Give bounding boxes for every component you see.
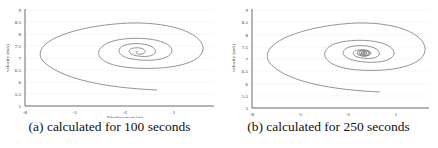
- svg-text:5.5: 5.5: [15, 92, 22, 97]
- svg-text:-8: -8: [250, 112, 255, 117]
- svg-text:-8: -8: [23, 110, 28, 115]
- svg-text:8.5: 8.5: [242, 20, 249, 25]
- x-ticks: -8-5 -21: [23, 110, 176, 115]
- y-ticks: 98.58 7.576.5 65.55: [15, 8, 22, 109]
- gridlines: [252, 10, 429, 96]
- phase-plot-b: 98.58 7.576.5 65.55 -8-5 -21 Displacemen…: [219, 0, 438, 118]
- svg-text:7: 7: [246, 57, 249, 62]
- spiral-line: [267, 23, 425, 92]
- x-axis-label: Displacement (m): [107, 115, 143, 118]
- svg-text:-5: -5: [73, 110, 78, 115]
- svg-text:1: 1: [395, 112, 398, 117]
- svg-text:8: 8: [246, 33, 249, 38]
- spiral-line: [40, 23, 203, 90]
- svg-text:5: 5: [19, 104, 22, 109]
- svg-text:6: 6: [246, 82, 249, 87]
- svg-text:8: 8: [19, 32, 22, 37]
- svg-text:9: 9: [246, 8, 249, 13]
- svg-text:8.5: 8.5: [15, 20, 22, 25]
- svg-text:5.5: 5.5: [242, 94, 249, 99]
- svg-text:6.5: 6.5: [242, 69, 249, 74]
- chart-panel-a: 98.58 7.576.5 65.55 -8-5 -21 Displacemen…: [0, 0, 219, 148]
- svg-text:7.5: 7.5: [15, 44, 22, 49]
- chart-panel-b: 98.58 7.576.5 65.55 -8-5 -21 Displacemen…: [219, 0, 438, 148]
- svg-text:7: 7: [19, 56, 22, 61]
- y-axis-label: velocity (m/s): [5, 44, 10, 72]
- y-ticks: 98.58 7.576.5 65.55: [242, 8, 249, 111]
- caption-b: (b) calculated for 250 seconds: [219, 119, 438, 135]
- svg-text:1: 1: [173, 110, 176, 115]
- svg-text:6.5: 6.5: [15, 68, 22, 73]
- x-ticks: -8-5 -21: [250, 112, 398, 117]
- spiral-core: [357, 50, 371, 56]
- svg-text:7.5: 7.5: [242, 45, 249, 50]
- x-axis-label: Displacement (m): [326, 117, 362, 118]
- svg-text:9: 9: [19, 8, 22, 13]
- phase-plot-a: 98.58 7.576.5 65.55 -8-5 -21 Displacemen…: [0, 0, 219, 118]
- caption-a: (a) calculated for 100 seconds: [0, 119, 219, 135]
- svg-text:6: 6: [19, 80, 22, 85]
- svg-text:5: 5: [246, 106, 249, 111]
- svg-text:-5: -5: [298, 112, 303, 117]
- y-axis-label: velocity (m/s): [231, 44, 236, 72]
